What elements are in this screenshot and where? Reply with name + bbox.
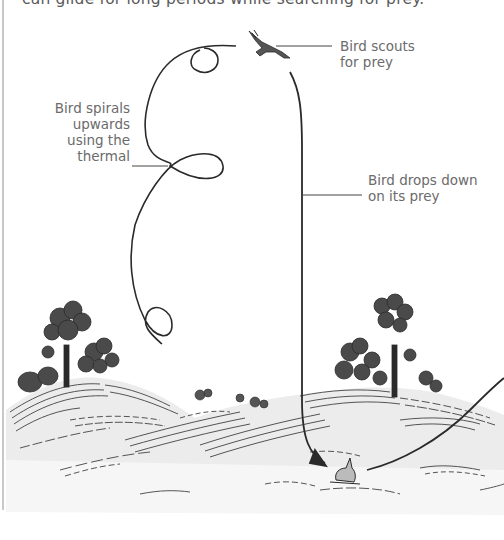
label-bird-scouts: Bird scouts for prey bbox=[340, 38, 415, 70]
bushes-middle bbox=[195, 389, 268, 408]
leader-lines bbox=[132, 46, 362, 195]
label-bird-spirals: Bird spirals upwards using the thermal bbox=[30, 100, 130, 164]
bird-icon bbox=[249, 30, 290, 58]
trees-left bbox=[18, 301, 119, 392]
label-line: Bird spirals bbox=[30, 100, 130, 116]
label-bird-drops: Bird drops down on its prey bbox=[368, 172, 478, 204]
trees-right bbox=[335, 294, 442, 397]
label-line: on its prey bbox=[368, 188, 478, 204]
label-line: Bird drops down bbox=[368, 172, 478, 188]
label-line: using the bbox=[30, 132, 130, 148]
label-line: for prey bbox=[340, 54, 415, 70]
label-line: upwards bbox=[30, 116, 130, 132]
illustration bbox=[0, 0, 504, 540]
label-line: Bird scouts bbox=[340, 38, 415, 54]
label-line: thermal bbox=[30, 148, 130, 164]
spiral-flight-path bbox=[131, 46, 236, 344]
